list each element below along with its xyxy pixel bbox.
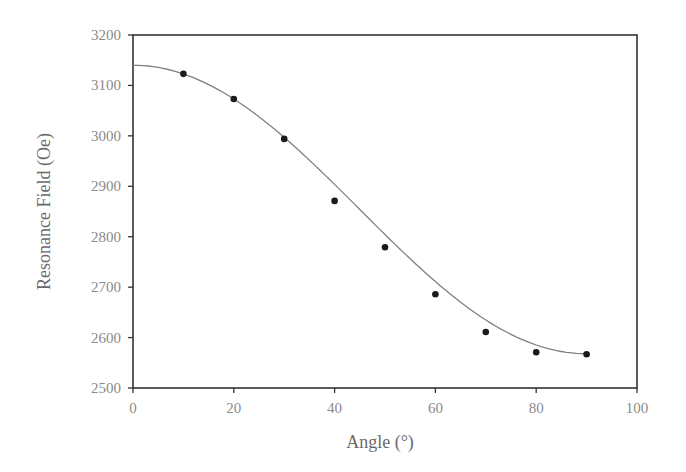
resonance-field-chart: 2500260027002800290030003100320002040608…	[0, 0, 686, 472]
x-tick-label: 20	[226, 400, 241, 416]
y-tick-label: 3100	[91, 77, 121, 93]
plot-frame	[133, 35, 637, 388]
y-axis-title: Resonance Field (Oe)	[34, 133, 55, 290]
y-tick-label: 2700	[91, 279, 121, 295]
y-tick-label: 3200	[91, 27, 121, 43]
x-tick-label: 80	[529, 400, 544, 416]
data-point	[281, 136, 288, 143]
data-point	[331, 198, 338, 205]
y-tick-label: 2900	[91, 178, 121, 194]
data-point	[432, 291, 439, 298]
x-tick-label: 40	[327, 400, 342, 416]
y-tick-label: 2500	[91, 380, 121, 396]
data-point	[483, 329, 490, 336]
data-point	[180, 71, 187, 78]
data-point	[382, 244, 389, 251]
data-point	[583, 351, 590, 358]
data-point	[231, 96, 238, 103]
x-axis-title: Angle (°)	[346, 432, 414, 453]
fit-curve	[133, 65, 587, 353]
y-tick-label: 2600	[91, 330, 121, 346]
x-tick-label: 0	[129, 400, 137, 416]
x-tick-label: 100	[626, 400, 649, 416]
y-tick-label: 3000	[91, 128, 121, 144]
data-point	[533, 349, 540, 356]
x-tick-label: 60	[428, 400, 443, 416]
y-tick-label: 2800	[91, 229, 121, 245]
